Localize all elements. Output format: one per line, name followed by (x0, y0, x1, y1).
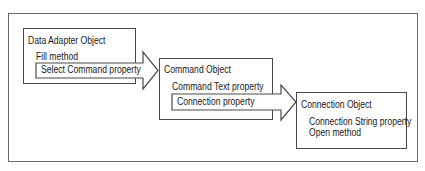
arrows-layer (0, 0, 425, 171)
select-command-property-label: Select Command property (41, 64, 141, 75)
connection-property-label: Connection property (177, 96, 254, 107)
